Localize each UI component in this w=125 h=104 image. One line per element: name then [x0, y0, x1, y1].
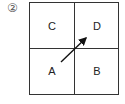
arrow-icon — [0, 0, 125, 104]
